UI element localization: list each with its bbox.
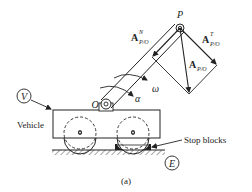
svg-text:P/O: P/O [138,39,149,45]
frame-e-label: E [168,158,175,169]
total-vector-label: A P/O [189,59,207,72]
stop-blocks [115,144,151,150]
normal-vector-label: A N P/O [131,29,149,45]
figure-caption: (a) [121,176,131,186]
stop-blocks-label: Stop blocks [184,135,227,145]
alpha-arrow-icon [100,86,133,96]
frame-e-marker: E [165,156,179,170]
point-o-label: O [91,99,98,110]
vehicle-body [53,110,160,138]
svg-text:A: A [202,34,210,45]
svg-text:T: T [210,31,214,37]
omega-label: ω [152,83,159,94]
vehicle-label: Vehicle [17,120,44,130]
svg-text:P/O: P/O [196,66,207,72]
svg-text:A: A [189,59,197,70]
stop-blocks-leader [152,140,182,147]
frame-v-marker: V [17,89,51,109]
total-acceleration-vector [180,28,189,92]
alpha-label: α [135,93,141,104]
svg-text:N: N [138,29,144,35]
ground [52,150,165,155]
point-p-label: P [176,9,183,20]
diagram-canvas: V E P O ω α Vehicle Stop blocks (a) A N … [0,0,252,192]
tangential-vector-label: A T P/O [202,31,220,47]
pivot-o [101,99,111,109]
svg-text:A: A [131,32,139,43]
svg-text:P/O: P/O [209,41,220,47]
